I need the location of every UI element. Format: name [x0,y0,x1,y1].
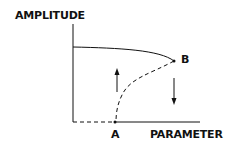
jump-up-arrow [115,68,120,92]
upper-stable-branch [73,47,174,61]
point-b-marker [173,60,176,63]
point-a-label: A [111,129,120,140]
point-b-label: B [181,54,189,65]
jump-down-arrow [172,78,177,105]
x-axis-label: PARAMETER [150,129,223,140]
unstable-branch [116,61,174,122]
hysteresis-diagram [0,0,241,148]
point-a-marker [114,121,117,124]
